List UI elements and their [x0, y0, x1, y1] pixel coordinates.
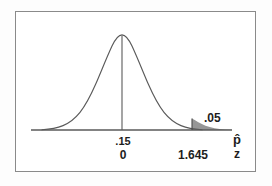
center-phat-tick-label: .15: [112, 136, 134, 147]
center-z-tick-label: 0: [112, 149, 134, 161]
critical-value-tick-label: 1.645: [172, 149, 214, 161]
x-axis-name-phat: p̂: [230, 133, 244, 146]
normal-curve-figure: .05 .15 0 1.645 p̂ z: [0, 0, 272, 186]
x-axis-name-z: z: [230, 148, 244, 160]
tail-area-label: .05: [204, 112, 221, 124]
